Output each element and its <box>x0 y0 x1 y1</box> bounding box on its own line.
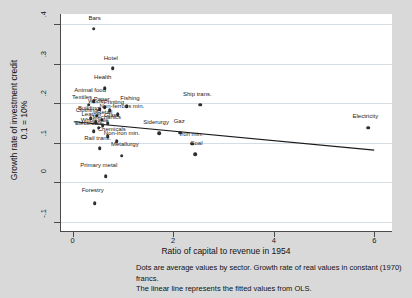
x-tick-label: 2 <box>158 236 188 245</box>
data-point <box>194 152 198 156</box>
data-point-label: Bars <box>89 15 101 22</box>
caption-line-2: The linear line represents the fitted va… <box>136 284 404 295</box>
data-point-label: Forestry <box>82 187 104 194</box>
y-tick-label: .2 <box>39 90 48 116</box>
data-point <box>98 147 102 151</box>
data-point-label: Gaz <box>174 118 185 125</box>
data-point <box>120 154 124 158</box>
data-point-label: Metallurgy <box>111 141 139 148</box>
y-axis-title-line1: Growth rate of investment credit <box>9 5 19 235</box>
y-axis-title-line2: 0.1 = 10% <box>19 5 29 235</box>
data-point <box>157 132 161 136</box>
data-point-label: Iron min. <box>180 131 203 138</box>
data-point-label: Hotel <box>104 55 118 62</box>
figure-caption: Dots are average values by sector. Growt… <box>136 263 404 295</box>
y-tick-label: -.1 <box>39 209 48 235</box>
caption-line-1: Dots are average values by sector. Growt… <box>136 263 404 284</box>
y-tick-label: .1 <box>39 130 48 156</box>
data-point <box>104 174 108 178</box>
data-point-label: Rail trans. <box>84 135 111 142</box>
x-tick-label: 0 <box>58 236 88 245</box>
y-tick-label: 0 <box>39 169 48 195</box>
data-point-label: Siderurgy <box>143 119 169 126</box>
plot-area: BarsHotelHealthAnimal foodTextilesFishin… <box>60 14 392 232</box>
data-point-label: Ship trans. <box>183 91 212 98</box>
y-axis-title: Growth rate of investment credit 0.1 = 1… <box>9 5 29 235</box>
data-point <box>92 27 96 31</box>
data-point <box>92 129 96 133</box>
data-point <box>367 126 371 130</box>
data-point <box>199 103 203 107</box>
scatter-plot-figure: Growth rate of investment credit 0.1 = 1… <box>0 0 412 298</box>
y-tick-label: .4 <box>39 11 48 37</box>
x-tick-label: 4 <box>259 236 289 245</box>
ols-fit-line <box>61 14 392 231</box>
data-point-label: Primary metal <box>80 162 117 169</box>
data-point-label: Health <box>94 74 111 81</box>
data-point <box>111 67 115 71</box>
data-point <box>93 201 97 205</box>
plot-inner: BarsHotelHealthAnimal foodTextilesFishin… <box>61 14 392 231</box>
x-tick-label: 6 <box>359 236 389 245</box>
x-axis-title: Ratio of capital to revenue in 1954 <box>60 246 392 256</box>
data-point-label: Electricity <box>352 113 378 120</box>
data-point-label: Coal <box>190 140 202 147</box>
y-tick-label: .3 <box>39 51 48 77</box>
